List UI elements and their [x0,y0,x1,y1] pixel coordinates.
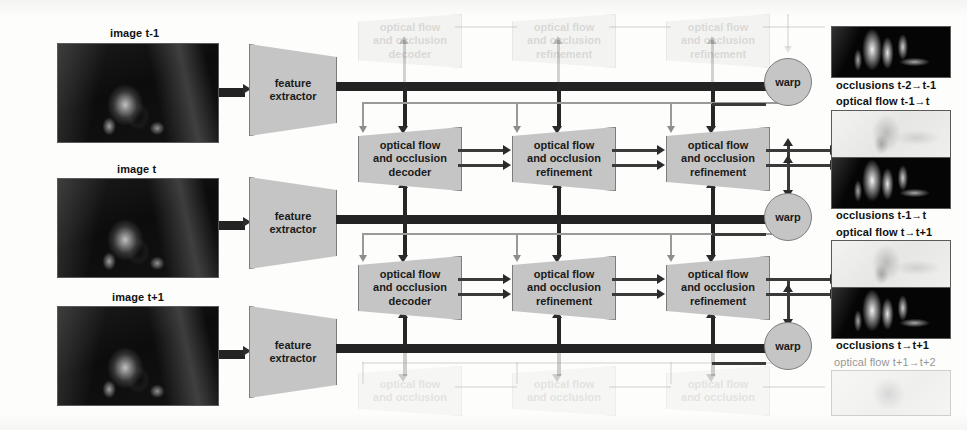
ghost-block-bottom-2: optical flow and occlusion [666,366,770,416]
ghost-connector-top-1 [609,26,671,28]
output-label-1: optical flow t-1→t [836,95,929,107]
feed-row2-block1-from-bus2 [557,316,561,346]
warp-tee-up-row1 [783,155,793,163]
image-t [57,178,219,278]
ghost-bottom-1-line1: optical flow [527,378,601,391]
ghost-warp-feed-top [787,14,789,48]
output-label-3: optical flow t→t+1 [836,226,932,238]
ghost-block-top-2: optical flow and occlusion refinement [666,14,770,68]
feed-row1-block0-from-bus1 [403,186,407,216]
output-optical-flow-t-to-t-1 [831,240,951,288]
feature-extractor-2[interactable]: feature extractor [249,306,337,398]
ghost-bottom-0-line2: and occlusion [373,391,447,404]
skip-drop-row1-2 [670,102,672,128]
row1-block0-line3: decoder [373,166,447,179]
warp-0-label: warp [775,76,801,88]
warp0-side-link [712,103,766,106]
output-occlusions-t-2-to-t-1 [831,26,951,78]
skip-drop-row2-2 [670,233,672,257]
row2-out-flow [766,278,834,281]
ghost-top-1-line2: and occlusion [527,34,601,47]
warp-0[interactable]: warp [764,58,812,106]
row2-link-1-occ [612,293,660,296]
ghost-bottom-1-line2: and occlusion [527,391,601,404]
feed-row2-block0-from-bus2 [403,316,407,346]
ghost-connector-top-0 [455,26,517,28]
row1-block2-line1: optical flow [681,139,755,152]
image-t-plus-1 [57,306,219,406]
output-label-4: occlusions t→t+1 [836,339,929,351]
ghost-warp-arrowhead-top [784,46,792,53]
ghost-connector-bottom-2 [763,386,825,388]
ghost-top-0-line3: decoder [373,48,447,61]
ghost-feed-top-0 [403,40,406,84]
feed-row1-block0-from-bus0 [403,86,407,128]
row1-link-0-occ-head [503,160,511,170]
feature-extractor-1-line2: extractor [269,223,316,236]
ghost-top-0-line2: and occlusion [373,34,447,47]
output-occlusions-t-1-to-t [831,157,951,209]
warp0-feed-up-head [783,138,793,146]
optical-flow-occlusion-refinement-row2-b[interactable]: optical flow and occlusion refinement [666,256,770,320]
ghost-top-2-line2: and occlusion [681,34,755,47]
feature-extractor-2-line1: feature [269,339,316,352]
ghost-block-top-0: optical flow and occlusion decoder [358,14,462,68]
warp-2-label: warp [775,340,801,352]
warp1-side-link [712,233,766,236]
feature-bus-0 [336,82,766,91]
skip-arrowhead-row1-2 [667,126,675,133]
ghost-bottom-2-line1: optical flow [681,378,755,391]
row2-block0-line3: decoder [373,295,447,308]
ghost-block-top-1: optical flow and occlusion refinement [512,14,616,68]
optical-flow-occlusion-refinement-row2-a[interactable]: optical flow and occlusion refinement [512,256,616,320]
row1-block1-line1: optical flow [527,139,601,152]
warp-2[interactable]: warp [764,322,812,370]
row1-link-0-occ [458,164,506,167]
optical-flow-occlusion-refinement-row1-b[interactable]: optical flow and occlusion refinement [666,127,770,191]
row1-link-1-occ-head [657,160,665,170]
feed-row2-block2-from-bus2 [711,316,715,346]
ghost-connector-bottom-0 [455,386,517,388]
row2-block2-line2: and occlusion [681,281,755,294]
row2-block1-line2: and occlusion [527,281,601,294]
skip-drop-row2-0 [362,233,364,257]
optical-flow-occlusion-decoder-row2[interactable]: optical flow and occlusion decoder [358,256,462,320]
ghost-arrowhead-top-2 [707,36,717,44]
feed-row1-block1-from-bus0 [557,86,561,128]
row2-link-0-flow [458,278,506,281]
warp-1[interactable]: warp [764,193,812,241]
ghost-arrowhead-top-1 [553,36,563,44]
row2-block2-line1: optical flow [681,268,755,281]
row1-block0-line2: and occlusion [373,152,447,165]
row2-block0-line2: and occlusion [373,281,447,294]
row2-link-0-flow-head [503,274,511,284]
feature-extractor-1[interactable]: feature extractor [249,177,337,269]
ghost-bottom-0-line1: optical flow [373,378,447,391]
ghost-top-0-line1: optical flow [373,21,447,34]
skip-arrowhead-row1-0 [359,126,367,133]
row2-block1-line3: refinement [527,295,601,308]
skip-arrowhead-row2-1 [513,255,521,262]
optical-flow-occlusion-decoder-row1[interactable]: optical flow and occlusion decoder [358,127,462,191]
output-label-5: optical flow t+1→t+2 [834,356,936,368]
row2-link-1-flow [612,278,660,281]
ghost-top-1-line1: optical flow [527,21,601,34]
arrow-image0-to-encoder [219,88,245,97]
output-optical-flow-t-1-to-t-2 [831,370,951,416]
warp-tee-up-row2 [783,284,793,292]
optical-flow-occlusion-refinement-row1-a[interactable]: optical flow and occlusion refinement [512,127,616,191]
feed-row2-block0-from-bus1 [403,219,407,257]
warp2-side-link [712,362,766,365]
ghost-connector-top-2 [763,26,825,28]
row2-block0-line1: optical flow [373,268,447,281]
ghost-top-2-line1: optical flow [681,21,755,34]
feature-extractor-0-line2: extractor [269,90,316,103]
ghost-top-2-line3: refinement [681,48,755,61]
row1-link-1-occ [612,164,660,167]
row1-block1-line2: and occlusion [527,152,601,165]
feature-extractor-0[interactable]: feature extractor [249,44,337,136]
row2-link-0-occ [458,293,506,296]
input-caption-2: image t+1 [112,291,164,303]
image-t-minus-1 [57,43,219,143]
row1-out-occ [766,164,834,167]
